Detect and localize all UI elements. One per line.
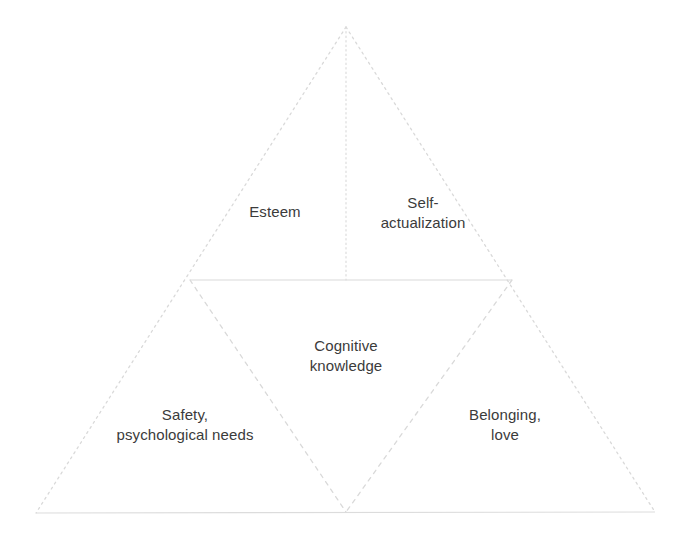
divider-inner-left [190,280,346,512]
section-label-self-actualization: Self- actualization [358,193,488,232]
pyramid-shape-svg [0,0,686,546]
section-label-belonging: Belonging, love [430,405,580,444]
section-label-esteem: Esteem [215,202,335,222]
section-label-safety: Safety, psychological needs [80,405,290,444]
pyramid-diagram: Esteem Self- actualization Cognitive kno… [0,0,686,546]
section-label-cognitive-knowledge: Cognitive knowledge [276,336,416,375]
divider-inner-right [346,280,512,512]
